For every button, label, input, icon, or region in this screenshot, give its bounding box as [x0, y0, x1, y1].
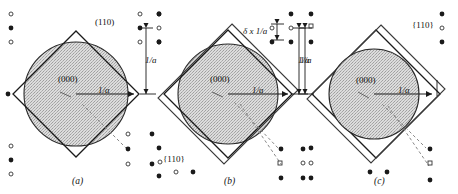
filled-lattice-point — [309, 146, 314, 151]
filled-lattice-point — [138, 26, 143, 31]
panel-a — [13, 28, 156, 157]
filled-lattice-point — [150, 132, 155, 137]
panel-b-center-label: (000) — [210, 75, 230, 84]
panel-b-radius-label: 1/a — [252, 86, 264, 95]
filled-lattice-point — [309, 176, 314, 181]
panel-a-vertical-dim-label: 1/a — [145, 56, 157, 65]
open-lattice-point — [9, 144, 13, 148]
filled-lattice-point — [279, 176, 284, 181]
open-lattice-point — [138, 12, 142, 16]
square-lattice-point — [428, 161, 432, 165]
filled-lattice-point — [157, 146, 162, 151]
panel-c-radius-label: 1/a — [398, 86, 410, 95]
filled-lattice-point — [440, 12, 445, 17]
filled-lattice-point — [368, 170, 373, 175]
filled-lattice-point — [9, 158, 14, 163]
panel-a-plane-label: (110) — [95, 18, 114, 27]
filled-lattice-point — [428, 178, 433, 183]
panel-a-radius-label: 1/a — [98, 86, 110, 95]
open-lattice-point — [270, 26, 274, 30]
filled-lattice-point — [279, 147, 284, 152]
open-lattice-point — [174, 170, 178, 174]
open-lattice-point — [9, 12, 13, 16]
square-lattice-point — [309, 24, 313, 28]
filled-lattice-point — [157, 12, 162, 17]
filled-lattice-point — [385, 170, 390, 175]
open-lattice-point — [289, 26, 293, 30]
filled-lattice-point — [301, 176, 306, 181]
filled-lattice-point — [6, 92, 11, 97]
panel-c-center-label: (000) — [356, 76, 376, 85]
panel-b-delta-label: δ x 1/a — [243, 27, 267, 36]
open-lattice-point — [126, 132, 130, 136]
filled-lattice-point — [289, 40, 294, 45]
panel-b-caption: (b) — [224, 176, 235, 186]
filled-lattice-point — [440, 40, 445, 45]
filled-lattice-point — [309, 12, 314, 17]
filled-lattice-point — [270, 40, 275, 45]
figure-canvas — [0, 0, 458, 194]
open-lattice-point — [158, 160, 162, 164]
open-lattice-point — [9, 172, 13, 176]
filled-lattice-point — [157, 174, 162, 179]
filled-lattice-point — [157, 40, 162, 45]
filled-lattice-point — [428, 147, 433, 152]
open-lattice-point — [126, 162, 130, 166]
filled-lattice-point — [9, 26, 14, 31]
filled-lattice-point — [191, 170, 196, 175]
filled-lattice-point — [150, 162, 155, 167]
panel-c — [298, 25, 445, 166]
open-lattice-point — [157, 26, 161, 30]
panel-b — [158, 24, 308, 164]
filled-lattice-point — [289, 12, 294, 17]
panel-a-caption: (a) — [72, 176, 83, 186]
panel-b-plane-label: {110} — [163, 155, 185, 164]
open-lattice-point — [9, 40, 13, 44]
panel-c-vertical-dim-label: 1/a — [300, 56, 312, 65]
open-lattice-point — [138, 40, 142, 44]
panel-c-caption: (c) — [374, 176, 385, 186]
square-lattice-point — [278, 161, 282, 165]
filled-lattice-point — [126, 147, 131, 152]
open-lattice-point — [301, 161, 305, 165]
open-lattice-point — [440, 26, 444, 30]
panel-a-center-label: (000) — [58, 75, 78, 84]
panel-c-plane-label: {110} — [412, 21, 434, 30]
filled-lattice-point — [309, 40, 314, 45]
open-lattice-point — [309, 161, 313, 165]
filled-lattice-point — [301, 147, 306, 152]
